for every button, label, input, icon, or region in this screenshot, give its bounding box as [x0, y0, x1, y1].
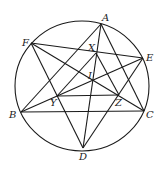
point-label-e: E	[145, 52, 154, 63]
circumcircle	[15, 21, 149, 151]
point-label-a: A	[101, 12, 109, 23]
point-label-x: X	[87, 42, 96, 53]
point-label-z: Z	[114, 97, 123, 108]
segment-yz	[57, 95, 119, 96]
point-label-f: F	[21, 37, 30, 48]
segment-ab	[21, 24, 101, 112]
geometry-figure: ABCDEFXIYZ	[0, 0, 163, 169]
segment-fe	[31, 43, 143, 58]
point-label-d: D	[78, 151, 87, 162]
point-label-b: B	[8, 109, 16, 120]
segments	[21, 24, 144, 148]
point-label-y: Y	[50, 97, 58, 108]
segment-bc	[21, 111, 144, 112]
point-label-c: C	[146, 109, 154, 120]
